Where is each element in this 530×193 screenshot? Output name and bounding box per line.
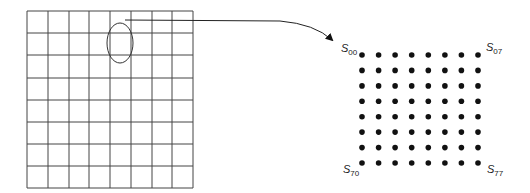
sample-dot xyxy=(442,129,448,135)
sample-dot xyxy=(409,129,415,135)
sample-dot xyxy=(475,83,481,89)
sample-dot xyxy=(459,160,465,166)
diagram-canvas xyxy=(0,0,530,193)
corner-label-s07: S07 xyxy=(486,42,502,53)
sample-dot xyxy=(426,52,432,58)
sample-dot xyxy=(359,160,365,166)
sample-dot xyxy=(459,68,465,74)
sample-dot xyxy=(409,114,415,120)
sample-dot xyxy=(392,145,398,151)
sample-dot xyxy=(442,145,448,151)
sample-dot xyxy=(459,145,465,151)
sample-dot xyxy=(359,145,365,151)
sample-dot xyxy=(426,83,432,89)
label-subscript: 77 xyxy=(494,169,503,178)
sample-dot xyxy=(426,145,432,151)
sample-dot xyxy=(359,114,365,120)
sample-dot xyxy=(409,83,415,89)
sample-dot xyxy=(392,68,398,74)
sample-dot xyxy=(376,129,382,135)
sample-dot xyxy=(359,83,365,89)
sample-dot xyxy=(475,52,481,58)
sample-dot xyxy=(442,68,448,74)
sample-dot xyxy=(459,114,465,120)
sample-dot xyxy=(426,68,432,74)
sample-dot xyxy=(392,160,398,166)
pixel-grid xyxy=(27,11,193,188)
sample-dot xyxy=(442,114,448,120)
mapping-arrow xyxy=(125,20,332,40)
corner-label-s77: S77 xyxy=(487,164,503,175)
sample-dot xyxy=(409,99,415,105)
sample-dot xyxy=(426,160,432,166)
sample-dot xyxy=(459,129,465,135)
sample-dot xyxy=(442,83,448,89)
sample-dot xyxy=(376,99,382,105)
sample-dot xyxy=(392,114,398,120)
sample-dot xyxy=(475,160,481,166)
sample-dot xyxy=(426,129,432,135)
sample-dot xyxy=(392,99,398,105)
sample-dot xyxy=(459,99,465,105)
sample-dot xyxy=(392,83,398,89)
label-subscript: 07 xyxy=(493,47,502,56)
sample-dot xyxy=(442,160,448,166)
sample-dot xyxy=(475,145,481,151)
sample-dot xyxy=(409,68,415,74)
sample-dot xyxy=(426,114,432,120)
sample-dot xyxy=(459,52,465,58)
sample-dot xyxy=(442,99,448,105)
sample-dot-matrix xyxy=(359,52,481,166)
sample-dot xyxy=(409,160,415,166)
sample-dot xyxy=(376,114,382,120)
label-subscript: 00 xyxy=(348,48,357,57)
sample-dot xyxy=(459,83,465,89)
sample-dot xyxy=(475,129,481,135)
sample-dot xyxy=(376,83,382,89)
sample-dot xyxy=(409,145,415,151)
sample-dot xyxy=(409,52,415,58)
sample-dot xyxy=(392,52,398,58)
sample-dot xyxy=(475,99,481,105)
corner-label-s00: S00 xyxy=(341,43,357,54)
sample-dot xyxy=(359,52,365,58)
corner-label-s70: S70 xyxy=(343,164,359,175)
sample-dot xyxy=(359,129,365,135)
sample-dot xyxy=(376,160,382,166)
label-subscript: 70 xyxy=(350,169,359,178)
sample-dot xyxy=(475,68,481,74)
sample-dot xyxy=(442,52,448,58)
sample-dot xyxy=(376,52,382,58)
sample-dot xyxy=(359,99,365,105)
sample-dot xyxy=(376,145,382,151)
sample-dot xyxy=(376,68,382,74)
highlight-ellipse xyxy=(107,23,133,63)
sample-dot xyxy=(475,114,481,120)
sample-dot xyxy=(392,129,398,135)
sample-dot xyxy=(359,68,365,74)
sample-dot xyxy=(426,99,432,105)
